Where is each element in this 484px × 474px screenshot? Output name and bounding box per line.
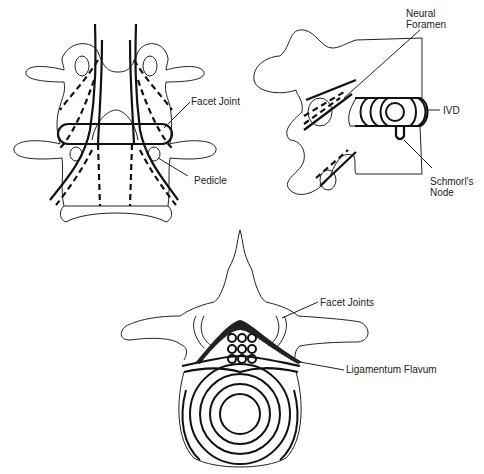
lateral-view-figure	[254, 30, 440, 195]
label-facet-joint: Facet Joint	[191, 96, 240, 107]
posterior-view-figure	[14, 24, 216, 222]
label-ligamentum-flavum: Ligamentum Flavum	[346, 364, 437, 375]
label-schmorl: Schmorl's	[430, 176, 474, 187]
label-node: Node	[430, 187, 454, 198]
label-pedicle: Pedicle	[194, 175, 227, 186]
label-ivd: IVD	[443, 105, 460, 116]
label-neural: Neural	[406, 8, 435, 19]
axial-view-figure	[121, 230, 368, 467]
label-foramen: Foramen	[406, 19, 446, 30]
spine-anatomy-diagram	[0, 0, 484, 474]
label-facet-joints: Facet Joints	[320, 297, 374, 308]
